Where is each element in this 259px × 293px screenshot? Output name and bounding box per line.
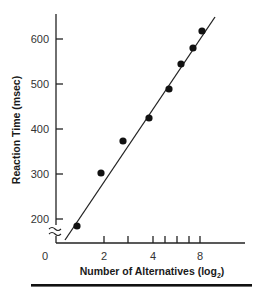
y-tick-label-200: 200 [31,213,49,225]
x-tick-label-4: 4 [150,250,156,262]
x-tick-label-0: 0 [42,250,48,262]
y-tick-label-600: 600 [31,33,49,45]
x-tick-label-2: 2 [101,250,107,262]
bottom-rule [31,284,252,287]
y-tick-label-400: 400 [31,123,49,135]
data-point [165,85,172,92]
x-axis-title-close: ) [221,265,225,277]
data-point [198,27,205,34]
y-tick-label-500: 500 [31,78,49,90]
axis-break-icon [49,228,61,236]
data-point [97,169,104,176]
x-axis-title: Number of Alternatives (log2) [80,265,225,279]
data-point [145,114,152,121]
x-axis-title-main: Number of Alternatives (log [80,265,217,277]
x-tick-label-8: 8 [197,250,203,262]
data-point [177,60,184,67]
y-ticks [56,39,63,219]
y-tick-label-300: 300 [31,168,49,180]
chart-canvas: 200 300 400 500 600 0 2 4 8 Reaction Tim… [0,0,259,293]
data-point [73,222,80,229]
y-axis-title: Reaction Time (msec) [10,76,22,184]
data-point [189,44,196,51]
x-ticks [104,236,200,243]
data-point [119,137,126,144]
